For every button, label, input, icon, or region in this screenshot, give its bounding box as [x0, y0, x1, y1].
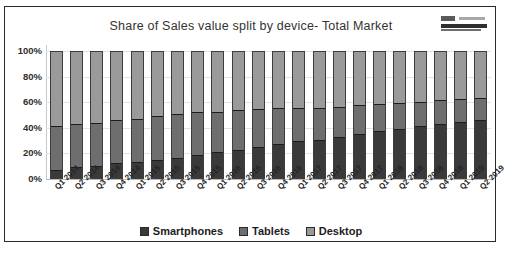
bar-column[interactable]: [393, 51, 406, 179]
y-axis-tick-label: 0%: [8, 173, 42, 184]
bar-segment-tablets: [334, 107, 345, 139]
bar-segment-desktop: [132, 52, 143, 119]
bar-segment-tablets: [253, 109, 264, 148]
legend-item[interactable]: Desktop: [306, 225, 362, 237]
bar-column[interactable]: [333, 51, 346, 179]
bar-segment-tablets: [233, 110, 244, 150]
bar-segment-tablets: [394, 103, 405, 130]
legend-label: Tablets: [252, 225, 290, 237]
chart-legend: SmartphonesTabletsDesktop: [5, 225, 497, 237]
bar-column[interactable]: [414, 51, 427, 179]
y-axis-tick-label: 60%: [8, 96, 42, 107]
legend-label: Desktop: [319, 225, 362, 237]
legend-swatch-icon: [140, 227, 149, 236]
bar-column[interactable]: [131, 51, 144, 179]
bar-segment-tablets: [132, 119, 143, 163]
bar-segment-desktop: [435, 52, 446, 100]
bar-segment-tablets: [415, 102, 426, 128]
bar-segment-tablets: [111, 120, 122, 164]
bar-segment-desktop: [455, 52, 466, 99]
bar-column[interactable]: [211, 51, 224, 179]
bar-column[interactable]: [252, 51, 265, 179]
bar-segment-desktop: [293, 52, 304, 108]
y-axis-tick-label: 100%: [8, 45, 42, 56]
logo-underline: [441, 24, 487, 28]
bar-segment-desktop: [374, 52, 385, 104]
bar-column[interactable]: [292, 51, 305, 179]
legend-swatch-icon: [239, 227, 248, 236]
bar-segment-tablets: [152, 116, 163, 160]
bar-column[interactable]: [272, 51, 285, 179]
bar-column[interactable]: [434, 51, 447, 179]
bar-segment-desktop: [354, 52, 365, 105]
legend-label: Smartphones: [153, 225, 223, 237]
bar-segment-desktop: [314, 52, 325, 108]
y-axis-tick-label: 40%: [8, 122, 42, 133]
bar-segment-desktop: [111, 52, 122, 120]
bar-segment-tablets: [293, 108, 304, 142]
bar-column[interactable]: [70, 51, 83, 179]
legend-item[interactable]: Tablets: [239, 225, 290, 237]
bar-segment-tablets: [475, 98, 486, 121]
brand-logo: [441, 15, 487, 32]
bar-segment-tablets: [314, 108, 325, 141]
bar-segment-desktop: [475, 52, 486, 98]
bar-segment-desktop: [71, 52, 82, 124]
bar-segment-desktop: [51, 52, 62, 126]
bar-column[interactable]: [232, 51, 245, 179]
bar-column[interactable]: [110, 51, 123, 179]
bar-column[interactable]: [171, 51, 184, 179]
bar-column[interactable]: [373, 51, 386, 179]
plot-area: [46, 45, 491, 179]
bar-segment-tablets: [455, 99, 466, 123]
bar-column[interactable]: [151, 51, 164, 179]
bar-segment-tablets: [192, 112, 203, 156]
bar-segment-tablets: [51, 126, 62, 170]
bar-column[interactable]: [90, 51, 103, 179]
y-axis-tick-label: 20%: [8, 147, 42, 158]
bar-column[interactable]: [313, 51, 326, 179]
y-axis-line: [46, 45, 47, 179]
logo-underline-secondary: [441, 29, 481, 31]
x-axis-labels: Q1 2014Q2 2014Q3 2014Q4 2014Q1 2015Q2 20…: [46, 183, 491, 223]
bar-column[interactable]: [353, 51, 366, 179]
y-axis-labels: 100%80%60%40%20%0%: [5, 45, 42, 179]
bar-segment-tablets: [71, 124, 82, 168]
bar-column[interactable]: [454, 51, 467, 179]
legend-swatch-icon: [306, 227, 315, 236]
bar-column[interactable]: [191, 51, 204, 179]
bar-segment-desktop: [253, 52, 264, 109]
bar-segment-tablets: [374, 104, 385, 132]
bar-segment-desktop: [192, 52, 203, 112]
bar-segment-tablets: [273, 108, 284, 145]
bar-segment-desktop: [415, 52, 426, 102]
bar-segment-desktop: [212, 52, 223, 112]
bar-segment-tablets: [354, 105, 365, 134]
bar-segment-desktop: [233, 52, 244, 110]
legend-item[interactable]: Smartphones: [140, 225, 223, 237]
bar-column[interactable]: [50, 51, 63, 179]
logo-wordmark: [459, 17, 485, 20]
bar-segment-tablets: [172, 114, 183, 159]
chart-title: Share of Sales value split by device- To…: [5, 19, 497, 33]
chart-frame: Share of Sales value split by device- To…: [4, 6, 496, 242]
bar-segment-desktop: [334, 52, 345, 107]
bar-segment-desktop: [91, 52, 102, 123]
bar-segment-desktop: [172, 52, 183, 114]
bar-segment-tablets: [91, 123, 102, 167]
bar-column[interactable]: [474, 51, 487, 179]
bar-segment-desktop: [273, 52, 284, 108]
bar-segment-tablets: [212, 112, 223, 154]
bar-segment-desktop: [394, 52, 405, 103]
y-axis-tick-label: 80%: [8, 71, 42, 82]
bar-segment-tablets: [435, 100, 446, 124]
bar-segment-desktop: [152, 52, 163, 116]
logo-mark: [441, 16, 455, 21]
